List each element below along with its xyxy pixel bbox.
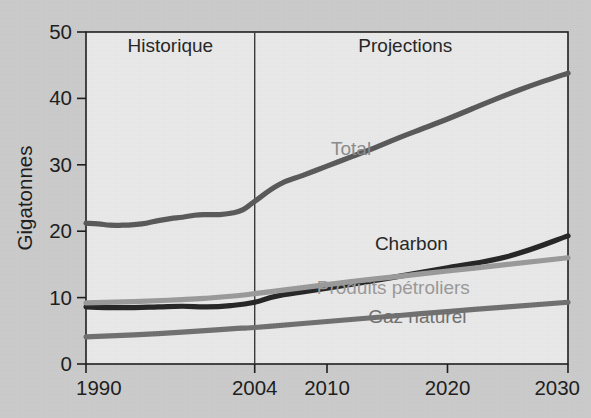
y-tick-label: 40 <box>49 86 72 109</box>
y-tick-label: 0 <box>61 352 72 375</box>
y-tick-label: 20 <box>49 219 72 242</box>
series-label-produits-p-troliers: Produits pétroliers <box>317 277 470 298</box>
x-tick-label: 2020 <box>425 376 471 399</box>
series-label-charbon: Charbon <box>375 233 448 254</box>
y-tick-label: 50 <box>49 20 72 43</box>
series-label-total: Total <box>331 138 371 159</box>
y-tick-label: 30 <box>49 153 72 176</box>
y-axis-title: Gigatonnes <box>13 146 36 251</box>
y-axis-tick-labels: 01020304050 <box>49 20 72 375</box>
x-tick-label: 2004 <box>232 376 278 399</box>
plot-area-background <box>86 32 568 364</box>
period-label-projections: Projections <box>358 35 452 56</box>
x-tick-label: 2030 <box>534 376 580 399</box>
x-tick-label: 1990 <box>76 376 122 399</box>
x-axis-ticks <box>86 364 568 373</box>
x-tick-label: 2010 <box>304 376 350 399</box>
y-tick-label: 10 <box>49 286 72 309</box>
y-axis-ticks <box>77 32 86 364</box>
line-chart: 01020304050 19902004201020202030 TotalCh… <box>0 0 591 418</box>
chart-figure: 01020304050 19902004201020202030 TotalCh… <box>0 0 591 418</box>
x-axis-tick-labels: 19902004201020202030 <box>76 376 580 399</box>
series-label-gaz-naturel: Gaz naturel <box>368 306 466 327</box>
period-label-historique: Historique <box>128 35 214 56</box>
